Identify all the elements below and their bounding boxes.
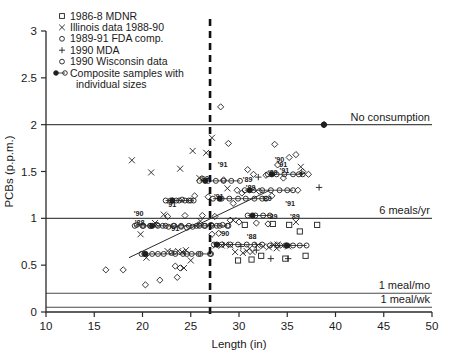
- year-annotation-2: '91: [167, 200, 177, 209]
- y-tick-label-0: 0: [31, 306, 37, 318]
- data-point-diamond: [305, 171, 311, 177]
- data-point-diamond: [120, 267, 126, 273]
- y-axis-title: PCBs (p.p.m.): [3, 135, 15, 207]
- legend-label-5-cont: individual sizes: [76, 78, 147, 90]
- year-annotation-18: '91: [218, 160, 228, 169]
- y-tick-label-4: 2: [31, 119, 37, 131]
- data-point-cross: [188, 257, 194, 263]
- data-point-diamond: [245, 167, 251, 173]
- guideline-label-0: No consumption: [351, 111, 431, 123]
- legend-label-0: 1986-8 MDNR: [70, 10, 138, 22]
- data-point-square: [249, 257, 254, 262]
- data-point-cross: [203, 150, 209, 156]
- year-annotation-4: '89: [199, 174, 209, 183]
- legend-label-3: 1990 MDA: [70, 44, 120, 56]
- data-point-square: [259, 253, 264, 258]
- year-annotation-8: '89: [246, 183, 256, 192]
- chart-canvas: No consumption6 meals/yr1 meal/mo1 meal/…: [0, 0, 451, 351]
- y-tick-label-6: 3: [31, 25, 37, 37]
- data-point-diamond: [230, 200, 236, 206]
- data-point-diamond: [174, 274, 180, 280]
- data-point-cross: [138, 231, 144, 237]
- year-annotation-14: '89: [290, 212, 300, 221]
- data-point-cross: [232, 249, 238, 255]
- legend-marker-plus: [59, 47, 65, 53]
- data-point-diamond: [199, 212, 205, 218]
- data-point-square: [297, 229, 302, 234]
- data-point-cross: [274, 245, 280, 251]
- data-point-circle: [180, 197, 185, 202]
- year-annotation-10: '89: [268, 168, 278, 177]
- x-tick-label-0: 10: [40, 320, 53, 332]
- legend-marker-square: [60, 14, 65, 19]
- data-point-circle: [220, 222, 225, 227]
- guideline-label-2: 1 meal/mo: [379, 279, 430, 291]
- y-tick-label-3: 1.5: [21, 166, 37, 178]
- legend-label-2: 1989-91 FDA comp.: [70, 32, 163, 44]
- legend-label-5: Composite samples with: [70, 67, 184, 79]
- data-point-diamond: [253, 220, 259, 226]
- y-tick-label-2: 1: [31, 212, 37, 224]
- data-point-diamond: [103, 267, 109, 273]
- year-annotation-3: '91: [169, 224, 179, 233]
- x-tick-label-5: 35: [281, 320, 294, 332]
- data-point-plus: [253, 247, 259, 253]
- year-annotation-13: '91: [285, 199, 295, 208]
- data-point-square: [235, 258, 240, 263]
- data-point-diamond: [225, 140, 231, 146]
- year-annotation-1: '88: [135, 218, 145, 227]
- data-point-square: [315, 222, 320, 227]
- data-point-cross: [247, 245, 253, 251]
- year-annotation-16: '89: [268, 212, 278, 221]
- pcb-length-scatter-figure: No consumption6 meals/yr1 meal/mo1 meal/…: [0, 0, 451, 351]
- y-tick-label-5: 2.5: [21, 72, 37, 84]
- data-point-cross: [177, 166, 183, 172]
- data-point-square: [287, 222, 292, 227]
- data-point-cross: [224, 185, 230, 191]
- data-point-square: [303, 253, 308, 258]
- data-point-cross: [181, 265, 187, 271]
- data-point-cross: [148, 169, 154, 175]
- data-point-filled: [250, 213, 255, 218]
- data-point-diamond: [218, 104, 224, 110]
- legend-label-4: 1990 Wisconsin data: [70, 55, 168, 67]
- legend-marker-circle: [60, 59, 65, 64]
- data-point-diamond: [157, 277, 163, 283]
- x-axis-title: Length (in): [212, 338, 267, 350]
- data-point-cross: [190, 148, 196, 154]
- year-annotation-17: '91: [278, 160, 288, 169]
- legend-marker-composite: [54, 71, 59, 76]
- year-annotation-5: '91: [214, 192, 224, 201]
- year-annotation-6: '90: [220, 229, 230, 238]
- x-tick-label-1: 15: [88, 320, 101, 332]
- guideline-label-1: 6 meals/yr: [379, 204, 430, 216]
- data-point-diamond: [142, 282, 148, 288]
- year-annotation-15: '88: [247, 232, 257, 241]
- data-point-cross: [129, 157, 135, 163]
- x-tick-label-6: 40: [329, 320, 342, 332]
- x-tick-label-3: 25: [184, 320, 197, 332]
- data-point-diamond: [293, 152, 299, 158]
- legend-marker-diamond: [60, 36, 65, 41]
- data-point-diamond: [256, 188, 262, 194]
- legend-marker-cross: [59, 25, 65, 31]
- year-annotation-9: '89: [262, 194, 272, 203]
- x-tick-label-8: 50: [426, 320, 439, 332]
- x-tick-label-4: 30: [233, 320, 246, 332]
- data-point-diamond: [182, 212, 188, 218]
- data-point-diamond: [272, 141, 278, 147]
- data-point-plus: [268, 255, 274, 261]
- data-point-diamond: [280, 175, 286, 181]
- guideline-label-3: 1 meal/wk: [380, 293, 430, 305]
- legend-label-1: Illinois data 1988-90: [70, 21, 164, 33]
- y-tick-label-1: 0.5: [21, 259, 37, 271]
- data-point-plus: [316, 184, 322, 190]
- x-tick-label-7: 45: [377, 320, 390, 332]
- data-point-diamond: [236, 219, 242, 225]
- x-tick-label-2: 20: [136, 320, 149, 332]
- data-point-square: [242, 222, 247, 227]
